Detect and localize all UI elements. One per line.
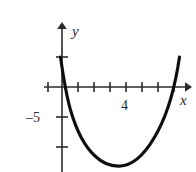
graph-figure: y x 4 –5 [0,0,196,172]
x-tick-label-4: 4 [121,98,128,113]
parabola-plot: y x 4 –5 [0,0,196,172]
parabola-curve [61,57,180,166]
x-axis-arrow-icon [185,82,192,92]
y-axis-arrow-icon [57,22,67,29]
y-axis-label: y [70,23,79,39]
y-tick-label-negative-5: –5 [25,110,40,125]
x-axis-label: x [179,92,187,108]
